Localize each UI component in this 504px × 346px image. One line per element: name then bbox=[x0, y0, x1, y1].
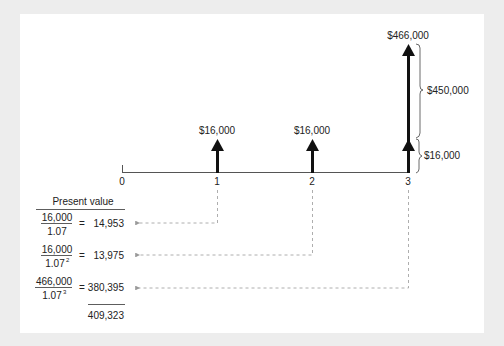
brace-coupon bbox=[416, 139, 422, 173]
equals-sign: = bbox=[79, 218, 85, 229]
pv-total: 409,323 bbox=[88, 310, 125, 321]
period-label-0: 0 bbox=[119, 176, 125, 187]
pv-denominator: 1.07 bbox=[45, 258, 65, 269]
pv-value: 13,975 bbox=[93, 250, 124, 261]
brace-principal bbox=[416, 44, 423, 138]
period-label-2: 2 bbox=[309, 176, 315, 187]
pv-value: 14,953 bbox=[93, 218, 124, 229]
pv-row-1: 16,000 1.07 = 14,953 bbox=[41, 212, 124, 237]
pv-row-2: 16,000 1.07 2 = 13,975 bbox=[41, 244, 124, 269]
cash-flow-label-2: $16,000 bbox=[294, 125, 331, 136]
pv-exponent: 3 bbox=[63, 289, 67, 295]
brace-label-principal: $450,000 bbox=[427, 85, 469, 96]
equals-sign: = bbox=[79, 250, 85, 261]
pv-connector-1 bbox=[136, 190, 218, 223]
cash-flow-diagram: 0 1 2 3 $16,000 $16,000 $466,000 $450,00… bbox=[0, 0, 504, 346]
pv-value: 380,395 bbox=[88, 282, 125, 293]
pv-exponent: 2 bbox=[66, 257, 70, 263]
brace-label-coupon: $16,000 bbox=[424, 150, 461, 161]
pv-numerator: 16,000 bbox=[42, 244, 73, 255]
pv-numerator: 466,000 bbox=[36, 276, 73, 287]
pv-row-3: 466,000 1.07 3 = 380,395 bbox=[35, 276, 124, 301]
period-label-3: 3 bbox=[405, 176, 411, 187]
cash-flow-label-1: $16,000 bbox=[199, 125, 236, 136]
pv-connector-2 bbox=[136, 190, 313, 255]
cash-flow-arrow-3 bbox=[402, 44, 415, 173]
timeline-axis bbox=[122, 165, 409, 173]
pv-connector-3 bbox=[136, 190, 409, 288]
pv-denominator: 1.07 bbox=[42, 290, 62, 301]
equals-sign: = bbox=[79, 282, 85, 293]
pv-numerator: 16,000 bbox=[42, 212, 73, 223]
cash-flow-arrow-1 bbox=[211, 139, 224, 173]
cash-flow-arrow-2 bbox=[306, 139, 319, 173]
period-label-1: 1 bbox=[214, 176, 220, 187]
pv-denominator: 1.07 bbox=[47, 226, 67, 237]
pv-header: Present value bbox=[52, 196, 114, 207]
cash-flow-label-3: $466,000 bbox=[387, 30, 429, 41]
